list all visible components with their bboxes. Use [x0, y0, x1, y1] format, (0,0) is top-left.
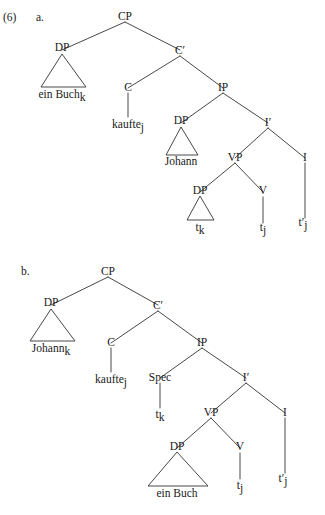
leaf-kaufte-b: kauftej	[95, 373, 127, 389]
node-cbar-b: C′	[153, 299, 163, 311]
leaf-ein-buch-b: ein Buch	[156, 487, 197, 499]
triangle-dp-johann-b	[30, 309, 75, 341]
leaf-trace-k-b: tk	[156, 408, 165, 423]
branch-cp-cbar-b	[108, 277, 158, 305]
branch-cbar-ip-b	[158, 311, 202, 343]
node-ibar-b: I′	[243, 371, 249, 383]
node-cp-b: CP	[101, 265, 115, 277]
node-c-b: C	[107, 336, 115, 348]
node-i-b: I	[283, 406, 287, 418]
leaf-trace-prime-j-b: t′j	[279, 472, 288, 488]
node-spec-b: Spec	[149, 371, 171, 384]
branch-ibar-i-b	[246, 383, 285, 413]
node-v-b: V	[236, 440, 245, 452]
leaf-trace-j-b: tj	[237, 479, 243, 495]
node-vp-b: VP	[204, 406, 219, 418]
syntax-tree-figure: (6) a. b. CP DP C′ C IP	[0, 0, 325, 515]
branch-cp-dp-b	[51, 277, 108, 305]
branch-cbar-c-b	[111, 311, 158, 343]
node-dp-object-b: DP	[170, 440, 185, 452]
triangle-dp-ein-buch-b	[148, 452, 208, 486]
branch-ip-ibar-b	[202, 348, 246, 378]
tree-b-diagram: CP DP C′ C IP Spec I′ VP I DP V Johannk …	[0, 0, 325, 515]
node-dp-spec-b: DP	[44, 296, 59, 308]
leaf-johann-b: Johannk	[32, 342, 71, 357]
node-ip-b: IP	[197, 336, 207, 348]
